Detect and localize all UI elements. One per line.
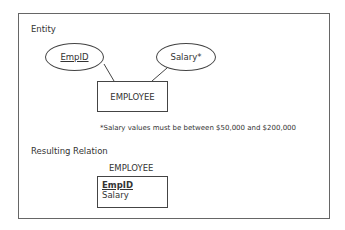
attribute-empid-label: EmpID xyxy=(60,52,88,62)
relationship-lines xyxy=(0,0,345,230)
attribute-salary-label: Salary* xyxy=(171,52,202,62)
salary-connector xyxy=(152,68,167,81)
attribute-salary: Salary* xyxy=(156,43,216,71)
attribute-empid: EmpID xyxy=(45,43,104,71)
relation-heading: Resulting Relation xyxy=(31,146,108,156)
relation-field-salary: Salary xyxy=(102,190,163,200)
relation-field-empid: EmpID xyxy=(102,180,163,190)
entity-employee: EMPLOYEE xyxy=(97,81,168,112)
relation-name: EMPLOYEE xyxy=(109,163,153,173)
entity-employee-label: EMPLOYEE xyxy=(110,92,154,102)
salary-footnote: *Salary values must be between $50,000 a… xyxy=(100,124,296,132)
empid-connector xyxy=(104,64,114,81)
relation-employee-table: EmpID Salary xyxy=(97,176,168,208)
